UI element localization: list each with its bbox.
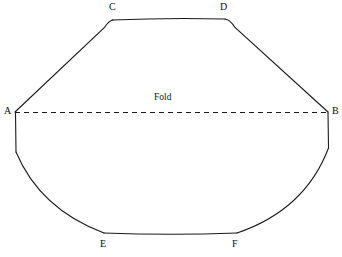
edge-f-to-e: [104, 233, 237, 234]
edge-c-to-d: [112, 18, 225, 20]
vertex-label-f: F: [232, 239, 238, 249]
edge-a-to-c: [15, 20, 113, 112]
edge-b-tab: [328, 112, 329, 148]
edge-e-to-a: [16, 152, 104, 233]
edge-a-tab: [16, 112, 17, 152]
fold-line-label: Fold: [154, 93, 171, 103]
edge-d-to-b: [225, 19, 328, 112]
vertex-label-a: A: [4, 106, 11, 116]
edge-b-to-f: [237, 148, 329, 233]
vertex-label-b: B: [332, 106, 339, 116]
fold-diagram-figure: A B C D E F Fold: [0, 0, 342, 257]
figure-canvas: [0, 0, 342, 257]
vertex-label-d: D: [220, 2, 227, 12]
vertex-label-e: E: [100, 239, 106, 249]
vertex-label-c: C: [109, 2, 116, 12]
